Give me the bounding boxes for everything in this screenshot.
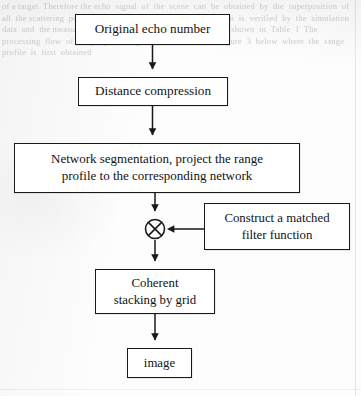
node-network-segmentation-line1: Network segmentation, project the range	[19, 151, 295, 168]
node-matched-filter-label: Construct a matched filter function	[209, 210, 345, 243]
node-matched-filter-line1: Construct a matched	[209, 210, 345, 226]
node-coherent-stacking-line2: stacking by grid	[100, 292, 210, 308]
flowchart-edges	[0, 0, 361, 396]
node-matched-filter-line2: filter function	[209, 227, 345, 243]
node-coherent-stacking-label: Coherent stacking by grid	[100, 275, 210, 308]
page-border-bottom	[0, 389, 361, 390]
node-network-segmentation-label: Network segmentation, project the range …	[19, 151, 295, 184]
node-network-segmentation: Network segmentation, project the range …	[14, 143, 300, 193]
multiply-circle-icon	[144, 218, 166, 240]
node-coherent-stacking-line1: Coherent	[100, 275, 210, 291]
page-border-right	[355, 0, 356, 396]
flowchart-page: of a target Therefore the echo signal of…	[0, 0, 361, 396]
node-distance-compression: Distance compression	[78, 77, 228, 106]
node-image-label: image	[132, 355, 187, 371]
node-matched-filter: Construct a matched filter function	[204, 203, 350, 250]
node-original-echo-number-label: Original echo number	[80, 21, 225, 38]
node-coherent-stacking: Coherent stacking by grid	[95, 269, 215, 314]
node-image: image	[127, 348, 192, 378]
node-network-segmentation-line2: profile to the corresponding network	[19, 168, 295, 185]
node-distance-compression-label: Distance compression	[83, 83, 223, 100]
paper-tint-overlay	[0, 0, 361, 396]
node-original-echo-number: Original echo number	[75, 14, 230, 45]
